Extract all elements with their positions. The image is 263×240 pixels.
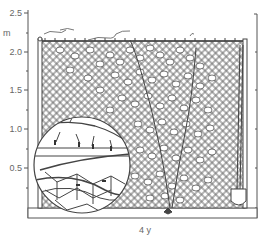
y-tick-label: 0.5: [0, 164, 22, 173]
y-axis-unit: m: [3, 28, 11, 38]
right-scale: [254, 14, 257, 218]
y-tick-label: 2.0: [0, 48, 22, 57]
y-tick-label: 2.5: [0, 9, 22, 18]
vine-tendrils-top: [44, 29, 194, 41]
height-axis: [24, 10, 28, 218]
y-tick-label: 1.5: [0, 86, 22, 95]
ground: [28, 208, 257, 218]
vine-fence-illustration: m 2.5 2.0 1.5 1.0 0.5 4 y: [0, 0, 263, 240]
y-tick-label: 1.0: [0, 125, 22, 134]
illustration-canvas: [0, 0, 263, 240]
x-axis-label: 4 y: [139, 225, 151, 235]
